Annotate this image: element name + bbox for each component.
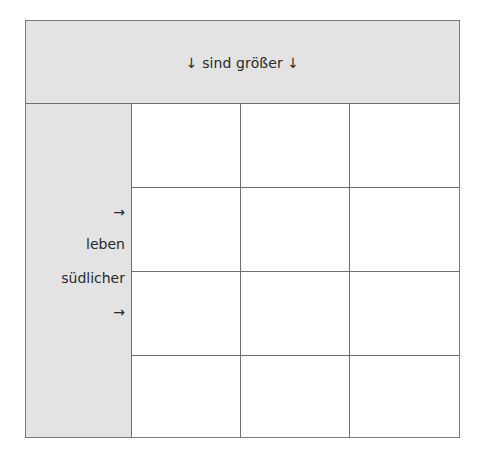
row-header-word-suedlicher: südlicher xyxy=(61,270,125,286)
comparison-table: ↓ sind größer ↓ → leben südlicher → xyxy=(25,20,460,438)
grid-cell-r4-c2[interactable] xyxy=(241,356,350,437)
grid-cell-r1-c1[interactable] xyxy=(132,104,241,188)
grid-cell-r3-c1[interactable] xyxy=(132,272,241,356)
grid-cell-r2-c1[interactable] xyxy=(132,188,241,272)
column-header: ↓ sind größer ↓ xyxy=(26,21,459,104)
grid-cell-r1-c2[interactable] xyxy=(241,104,350,188)
right-arrow-icon: → xyxy=(113,304,125,320)
grid-cell-r3-c3[interactable] xyxy=(350,272,459,356)
grid-cell-r4-c3[interactable] xyxy=(350,356,459,437)
row-header: → leben südlicher → xyxy=(26,104,132,437)
grid-cell-r3-c2[interactable] xyxy=(241,272,350,356)
grid-cell-r1-c3[interactable] xyxy=(350,104,459,188)
grid-cell-r2-c3[interactable] xyxy=(350,188,459,272)
grid-cell-r4-c1[interactable] xyxy=(132,356,241,437)
row-header-word-leben: leben xyxy=(86,236,125,252)
grid-cell-r2-c2[interactable] xyxy=(241,188,350,272)
right-arrow-icon: → xyxy=(113,204,125,220)
answer-grid xyxy=(132,104,459,437)
column-header-label: ↓ sind größer ↓ xyxy=(186,55,299,71)
